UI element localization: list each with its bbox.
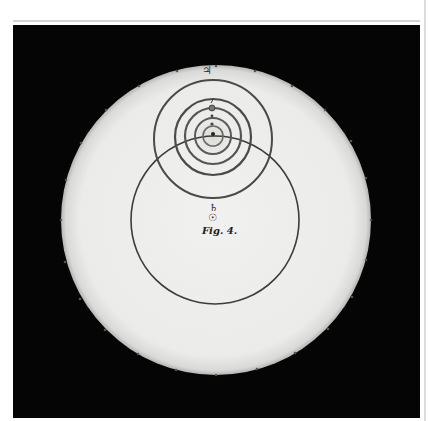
sun-symbol-icon: ☉ xyxy=(208,212,217,223)
jupiter-symbol-icon: ♃ xyxy=(202,64,212,77)
earth-planet-icon xyxy=(209,105,215,111)
sun-center-dot xyxy=(211,132,215,136)
figure-caption: Fig. 4. xyxy=(202,225,237,236)
mars-planet-dot xyxy=(211,115,214,118)
venus-planet-dot xyxy=(210,122,213,125)
